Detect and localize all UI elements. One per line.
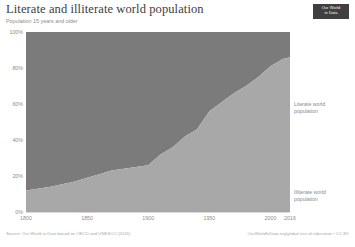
x-axis-tick: 1800: [20, 215, 32, 221]
our-world-in-data-logo[interactable]: Our World in Data: [313, 4, 349, 19]
x-axis-tick: 1950: [203, 215, 215, 221]
chart-subtitle: Population 15 years and older: [6, 18, 78, 24]
y-axis-tick: 40%: [12, 137, 23, 143]
source-note: Source: Our World in Data based on OECD …: [6, 231, 130, 236]
attribution-note[interactable]: OurWorldInData.org/global-rise-of-educat…: [248, 231, 350, 236]
series-label-illiterate: Illiterate world population: [294, 189, 346, 202]
y-axis-tick: 20%: [12, 173, 23, 179]
x-axis-tick: 2016: [284, 215, 296, 221]
y-axis-tick: 60%: [12, 101, 23, 107]
stacked-area-svg: [26, 32, 290, 212]
x-axis-line: [26, 212, 290, 213]
x-axis-tick: 1850: [81, 215, 93, 221]
x-axis-tick: 2000: [265, 215, 277, 221]
series-label-literate: Literate world population: [294, 101, 346, 114]
plot-area: 0%20%40%60%80%100%1800185019001950200020…: [26, 32, 290, 212]
chart-container: Literate and illiterate world population…: [0, 0, 355, 247]
y-axis-tick: 100%: [9, 29, 23, 35]
logo-line-2: in Data: [313, 11, 349, 16]
y-axis-tick: 80%: [12, 65, 23, 71]
page-title: Literate and illiterate world population: [6, 2, 204, 17]
x-axis-tick: 1900: [142, 215, 154, 221]
